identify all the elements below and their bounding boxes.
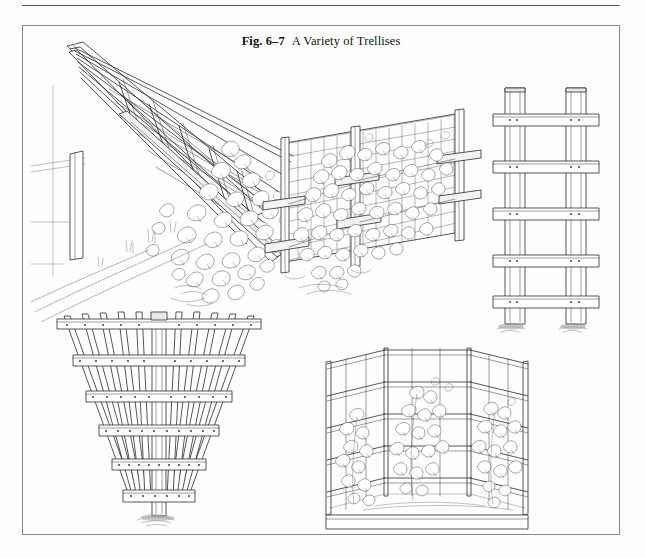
horizontal-rule <box>22 5 620 6</box>
ladder-rail-trellis-art <box>493 88 599 332</box>
fan-post-trellis-art <box>57 312 261 526</box>
ladder-rails <box>493 114 599 308</box>
figure-number: Fig. 6–7 <box>242 34 285 48</box>
vine-mass-corner <box>336 378 522 508</box>
figure-page: Fig. 6–7A Variety of Trellises <box>0 0 645 558</box>
illustration-layer <box>23 26 621 536</box>
figure-caption: Fig. 6–7A Variety of Trellises <box>23 34 619 49</box>
wire-mesh-fence-trellis-art <box>263 109 481 294</box>
vine-mass-arbor <box>171 141 288 303</box>
figure-frame: Fig. 6–7A Variety of Trellises <box>22 25 620 535</box>
figure-title: A Variety of Trellises <box>292 34 401 48</box>
lean-to-arbor-trellis-art <box>31 42 293 322</box>
corner-screen-trellis-art <box>326 348 528 529</box>
fan-rails <box>57 319 261 502</box>
fan-slats <box>64 312 254 498</box>
vine-mass-fence <box>294 132 453 292</box>
